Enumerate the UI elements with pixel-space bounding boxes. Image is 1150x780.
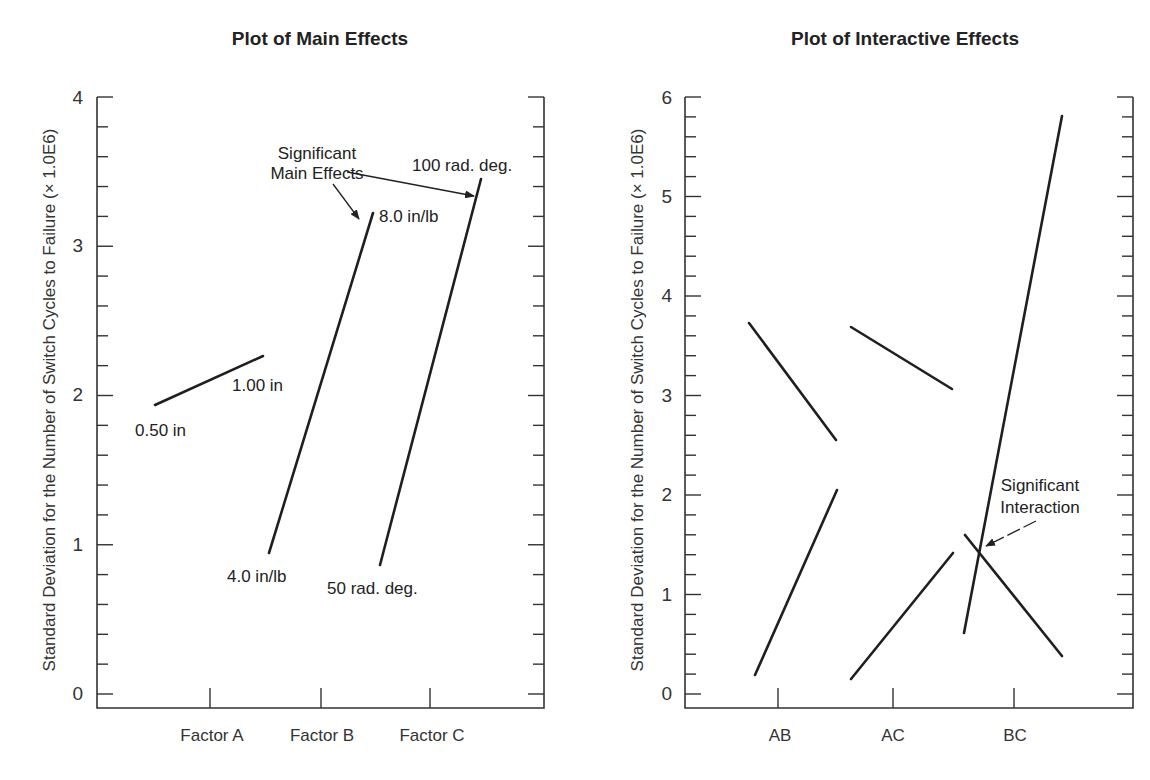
y-tick-label: 2 xyxy=(661,484,672,505)
ab-line-2 xyxy=(755,490,837,675)
annotation-arrow xyxy=(347,172,474,196)
annotation-arrow xyxy=(333,184,359,219)
y-tick-label: 0 xyxy=(72,683,83,704)
y-tick-label: 1 xyxy=(72,534,83,555)
factor-c-line xyxy=(380,179,481,565)
annotation-arrow xyxy=(986,521,1036,546)
y-tick-label: 4 xyxy=(661,285,672,306)
ac-line-2 xyxy=(851,553,953,679)
figure: Plot of Main Effects Standard Deviation … xyxy=(0,0,1150,780)
x-category-label: AC xyxy=(881,726,905,745)
y-tick-label: 4 xyxy=(72,87,83,108)
y-ticks xyxy=(97,127,544,694)
x-category-label: BC xyxy=(1003,726,1027,745)
annotation-text: Main Effects xyxy=(270,164,363,183)
point-label: 100 rad. deg. xyxy=(412,156,512,175)
chart-title: Plot of Main Effects xyxy=(232,28,408,49)
chart-title: Plot of Interactive Effects xyxy=(791,28,1019,49)
annotation-text: Interaction xyxy=(1000,498,1079,517)
y-tick-label: 1 xyxy=(661,584,672,605)
bc-line-1 xyxy=(964,116,1062,633)
y-axis-label: Standard Deviation for the Number of Swi… xyxy=(40,129,59,672)
annotation-text: Significant xyxy=(278,144,357,163)
x-category-label: Factor A xyxy=(180,726,244,745)
factor-b-line xyxy=(269,213,373,553)
x-category-label: AB xyxy=(769,726,792,745)
bc-line-2 xyxy=(965,535,1062,656)
y-tick-label: 0 xyxy=(661,683,672,704)
main-effects-chart: Plot of Main Effects Standard Deviation … xyxy=(40,28,544,745)
y-axis-label: Standard Deviation for the Number of Swi… xyxy=(628,129,647,672)
annotation-text: Significant xyxy=(1001,476,1080,495)
x-category-label: Factor C xyxy=(399,726,464,745)
point-label: 8.0 in/lb xyxy=(379,207,439,226)
y-tick-label: 2 xyxy=(72,384,83,405)
ab-line-1 xyxy=(749,323,836,440)
plot-frame xyxy=(685,97,1133,708)
interactive-effects-chart: Plot of Interactive Effects Standard Dev… xyxy=(628,28,1133,745)
point-label: 0.50 in xyxy=(135,421,186,440)
point-label: 4.0 in/lb xyxy=(227,567,287,586)
y-tick-label: 3 xyxy=(661,385,672,406)
y-tick-label: 6 xyxy=(661,87,672,108)
plot-frame xyxy=(97,97,544,708)
y-tick-label: 3 xyxy=(72,235,83,256)
point-label: 50 rad. deg. xyxy=(327,579,418,598)
point-label: 1.00 in xyxy=(232,376,283,395)
x-category-label: Factor B xyxy=(290,726,354,745)
y-tick-label: 5 xyxy=(661,186,672,207)
ac-line-1 xyxy=(851,327,952,389)
